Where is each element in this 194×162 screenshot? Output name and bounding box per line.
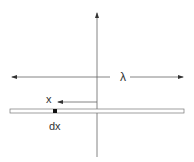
charged-rod-diagram: λ x dx <box>0 0 194 162</box>
dx-label: dx <box>49 120 61 132</box>
x-label: x <box>46 93 52 105</box>
dx-element <box>53 109 57 113</box>
lambda-label: λ <box>120 70 126 84</box>
charged-rod <box>10 109 184 113</box>
